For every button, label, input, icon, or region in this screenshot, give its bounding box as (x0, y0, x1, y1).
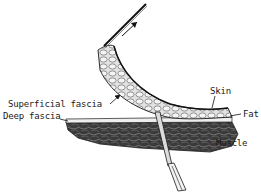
label-superficial-fascia: Superficial fascia (8, 99, 102, 109)
label-fat: Fat (243, 109, 259, 119)
label-muscle: Muscle (216, 138, 247, 148)
muscle-block (66, 122, 238, 152)
label-skin: Skin (210, 86, 231, 96)
diagram-canvas: Skin Fat Superficial fascia Deep fascia … (0, 0, 261, 193)
forceps (104, 4, 147, 47)
diagram-illustration (0, 0, 261, 193)
label-deep-fascia: Deep fascia (3, 111, 60, 121)
